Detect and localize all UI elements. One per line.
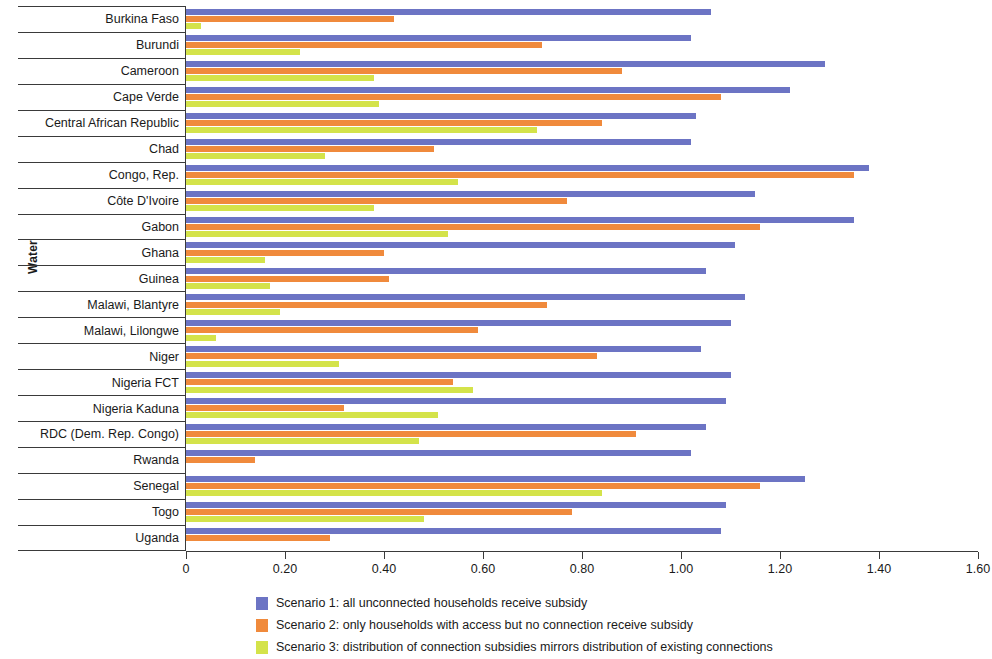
bar-group (186, 110, 978, 136)
category-label: Malawi, Lilongwe (84, 324, 179, 337)
bar-scenario-1 (186, 372, 731, 378)
category-row: Uganda (18, 525, 185, 551)
bar-group (186, 343, 978, 369)
bar-scenario-3 (186, 387, 473, 393)
category-label: Togo (152, 506, 179, 519)
category-label: Malawi, Blantyre (87, 299, 179, 312)
bar-group (186, 499, 978, 525)
bar-group (186, 136, 978, 162)
bar-scenario-2 (186, 172, 854, 178)
x-axis-tick-label: 0.20 (273, 562, 297, 576)
bar-scenario-1 (186, 87, 790, 93)
category-row: Cameroon (18, 58, 185, 84)
category-row: Central African Republic (18, 110, 185, 136)
bar-scenario-2 (186, 302, 547, 308)
bar-scenario-2 (186, 379, 453, 385)
legend-item[interactable]: Scenario 1: all unconnected households r… (256, 592, 976, 614)
bar-group (186, 162, 978, 188)
category-row: Niger (18, 343, 185, 369)
category-row: Gabon (18, 214, 185, 240)
category-row: Malawi, Blantyre (18, 291, 185, 317)
category-row: Rwanda (18, 447, 185, 473)
x-axis-tick (879, 552, 880, 559)
bar-scenario-3 (186, 127, 537, 133)
bar-scenario-1 (186, 139, 691, 145)
legend-swatch-icon (256, 597, 268, 610)
category-label: Uganda (135, 531, 179, 544)
category-label: Côte D'Ivoire (107, 195, 179, 208)
bar-scenario-1 (186, 424, 706, 430)
category-label: Rwanda (133, 454, 179, 467)
legend-item[interactable]: Scenario 2: only households with access … (256, 614, 976, 636)
bar-group (186, 473, 978, 499)
bar-scenario-2 (186, 94, 721, 100)
bar-group (186, 317, 978, 343)
bar-scenario-1 (186, 191, 755, 197)
category-label: Chad (149, 143, 179, 156)
category-label-column: Burkina FasoBurundiCameroonCape VerdeCen… (18, 6, 186, 551)
bar-scenario-1 (186, 217, 854, 223)
bar-scenario-1 (186, 61, 825, 67)
category-row: Burkina Faso (18, 6, 185, 32)
category-label: RDC (Dem. Rep. Congo) (40, 428, 179, 441)
bar-scenario-1 (186, 35, 691, 41)
category-label: Burkina Faso (105, 13, 179, 26)
bar-scenario-2 (186, 198, 567, 204)
bar-scenario-1 (186, 528, 721, 534)
x-axis-tick (186, 552, 187, 559)
bar-scenario-1 (186, 165, 869, 171)
bar-scenario-2 (186, 353, 597, 359)
category-label: Cameroon (121, 65, 179, 78)
bar-scenario-2 (186, 250, 384, 256)
category-row: Nigeria Kaduna (18, 395, 185, 421)
bar-scenario-2 (186, 68, 622, 74)
bar-scenario-1 (186, 398, 726, 404)
x-axis-tick (384, 552, 385, 559)
category-label: Nigeria Kaduna (93, 402, 179, 415)
bar-scenario-2 (186, 224, 760, 230)
bar-group (186, 395, 978, 421)
x-axis-tick-label: 0.60 (471, 562, 495, 576)
bar-scenario-2 (186, 42, 542, 48)
bar-scenario-3 (186, 23, 201, 29)
x-axis-tick-label: 1.40 (867, 562, 891, 576)
bar-scenario-2 (186, 120, 602, 126)
category-row: Togo (18, 499, 185, 525)
bar-scenario-3 (186, 231, 448, 237)
bar-scenario-3 (186, 205, 374, 211)
legend-label: Scenario 3: distribution of connection s… (276, 641, 773, 654)
x-axis-tick-label: 0 (183, 562, 190, 576)
bar-group (186, 214, 978, 240)
bar-scenario-2 (186, 483, 760, 489)
bar-scenario-3 (186, 309, 280, 315)
bar-scenario-2 (186, 535, 330, 541)
legend-item[interactable]: Scenario 3: distribution of connection s… (256, 636, 976, 658)
category-label: Guinea (139, 273, 179, 286)
bar-scenario-1 (186, 294, 745, 300)
bar-group (186, 58, 978, 84)
bar-scenario-3 (186, 283, 270, 289)
category-row: Congo, Rep. (18, 162, 185, 188)
chart-legend: Scenario 1: all unconnected households r… (256, 592, 976, 658)
bar-scenario-3 (186, 101, 379, 107)
bar-scenario-3 (186, 179, 458, 185)
bar-chart: Water Burkina FasoBurundiCameroonCape Ve… (0, 0, 992, 659)
category-label: Burundi (136, 39, 179, 52)
bar-scenario-3 (186, 438, 419, 444)
bar-scenario-1 (186, 242, 735, 248)
bar-group (186, 32, 978, 58)
bar-scenario-2 (186, 146, 434, 152)
bar-scenario-1 (186, 346, 701, 352)
bar-group (186, 525, 978, 551)
bar-group (186, 421, 978, 447)
category-row: Malawi, Lilongwe (18, 317, 185, 343)
x-axis-tick-label: 1.00 (669, 562, 693, 576)
bar-group (186, 265, 978, 291)
bar-group (186, 239, 978, 265)
bar-scenario-3 (186, 516, 424, 522)
legend-swatch-icon (256, 619, 268, 632)
category-label: Gabon (141, 221, 179, 234)
bar-group (186, 6, 978, 32)
bar-scenario-3 (186, 257, 265, 263)
bar-scenario-3 (186, 412, 438, 418)
